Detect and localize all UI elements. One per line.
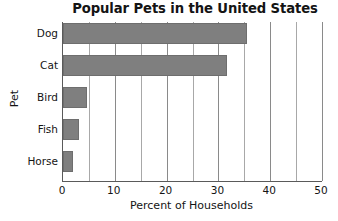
- y-axis-tick-label-horse: Horse: [0, 155, 58, 167]
- y-axis-tick-label-bird: Bird: [0, 91, 58, 103]
- bar-bird[interactable]: [63, 87, 87, 108]
- x-axis-tick-labels: 0 10 20 30 40 50: [62, 184, 321, 198]
- bar-cat[interactable]: [63, 55, 227, 76]
- x-axis-tick-label-40: 40: [263, 184, 276, 196]
- bar-chart-figure: Popular Pets in the United States Pet Do…: [0, 0, 338, 221]
- y-axis-tick-label-cat: Cat: [0, 59, 58, 71]
- bar-horse[interactable]: [63, 151, 73, 172]
- x-axis-tick-label-0: 0: [59, 184, 66, 196]
- chart-title: Popular Pets in the United States: [52, 1, 338, 16]
- gridline-30: [218, 22, 219, 181]
- x-axis-tick-label-30: 30: [211, 184, 224, 196]
- bar-fish[interactable]: [63, 119, 79, 140]
- gridline-45: [296, 22, 297, 181]
- gridline-5: [89, 22, 90, 181]
- gridline-25: [193, 22, 194, 181]
- gridline-15: [141, 22, 142, 181]
- y-axis-tick-labels: Dog Cat Bird Fish Horse: [0, 22, 58, 181]
- gridline-10: [115, 22, 116, 181]
- bar-dog[interactable]: [63, 23, 247, 44]
- gridline-50: [322, 22, 323, 181]
- x-axis-tick-label-20: 20: [159, 184, 172, 196]
- gridline-20: [167, 22, 168, 181]
- y-axis-tick-label-dog: Dog: [0, 27, 58, 39]
- x-axis-tick-label-10: 10: [107, 184, 120, 196]
- plot-area: [62, 22, 322, 182]
- gridline-35: [244, 22, 245, 181]
- y-axis-tick-label-fish: Fish: [0, 123, 58, 135]
- x-axis-tick-label-50: 50: [314, 184, 327, 196]
- x-axis-title: Percent of Households: [62, 199, 321, 212]
- gridline-40: [270, 22, 271, 181]
